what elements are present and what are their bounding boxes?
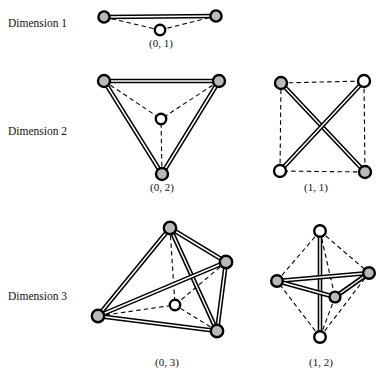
node-vertex-left: [98, 11, 109, 22]
caption-1-2: (1, 2): [309, 356, 333, 369]
node-vertex-bottom-right: [211, 325, 223, 337]
node-vertex-bottom: [314, 331, 326, 343]
node-vertex-left: [92, 310, 104, 322]
dashed-edges-layer: [98, 16, 369, 337]
node-vertex-front: [330, 292, 341, 303]
dashed-edge: [161, 119, 162, 174]
caption-0-2: (0, 2): [150, 181, 174, 194]
solid-edge-highlight: [104, 16, 216, 17]
node-vertex-top: [314, 225, 326, 237]
dashed-edge: [104, 81, 161, 119]
dashed-edge: [320, 273, 369, 337]
dashed-edge: [277, 231, 320, 281]
node-vertex-apex: [164, 222, 176, 234]
row-label-dimension-3: Dimension 3: [8, 290, 67, 302]
solid-edge-highlight: [104, 81, 162, 174]
dashed-edge: [280, 83, 281, 171]
solid-edge-highlight: [217, 262, 226, 331]
dashed-edge: [320, 231, 369, 273]
node-vertex-center: [170, 300, 180, 310]
node-vertex-center: [155, 25, 165, 35]
row-label-dimension-1: Dimension 1: [8, 17, 67, 29]
node-vertex-top-left: [98, 75, 110, 87]
solid-edge-highlight: [277, 281, 335, 297]
node-vertex-top-right: [213, 75, 225, 87]
nodes-layer: [92, 10, 375, 342]
node-vertex-bottom-left: [274, 165, 286, 177]
dashed-edge: [280, 171, 365, 172]
dashed-edge: [281, 81, 364, 83]
caption-0-3: (0, 3): [155, 356, 179, 369]
node-vertex-bottom: [156, 168, 168, 180]
solid-edges-layer: [98, 16, 369, 337]
node-vertex-top-left: [275, 77, 287, 89]
dashed-edge: [364, 81, 365, 172]
node-vertex-right: [210, 10, 221, 21]
node-vertex-bottom-right: [359, 166, 371, 178]
diagram-canvas: Dimension 1Dimension 2Dimension 3 (0, 1)…: [0, 0, 392, 379]
solid-edge-highlight: [162, 81, 219, 174]
caption-1-1: (1, 1): [304, 181, 328, 194]
captions-layer: (0, 1)(0, 2)(1, 1)(0, 3)(1, 2): [149, 37, 333, 369]
figure-root: Dimension 1Dimension 2Dimension 3 (0, 1)…: [0, 0, 392, 379]
row-labels-layer: Dimension 1Dimension 2Dimension 3: [8, 17, 67, 302]
solid-edge-highlight: [277, 273, 369, 281]
node-vertex-right: [220, 256, 232, 268]
node-vertex-right: [363, 267, 375, 279]
node-vertex-top-right: [358, 75, 370, 87]
node-vertex-center: [156, 114, 166, 124]
row-label-dimension-2: Dimension 2: [8, 125, 67, 137]
node-vertex-left: [271, 275, 283, 287]
caption-0-1: (0, 1): [149, 37, 173, 50]
solid-edge-highlight: [98, 316, 217, 331]
dashed-edge: [161, 81, 219, 119]
